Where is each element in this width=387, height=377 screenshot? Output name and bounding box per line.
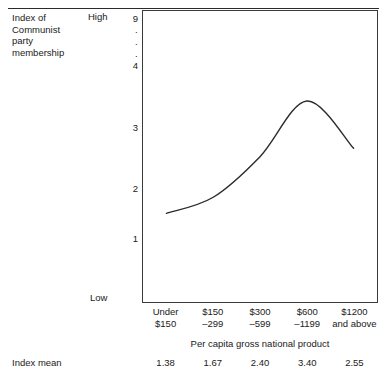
y-tick-label-2: 2: [122, 183, 138, 194]
x-category-3-line-1: $600: [284, 306, 331, 318]
x-category-1: $150 –299: [189, 306, 236, 329]
index-mean-values-row: 1.38 1.67 2.40 3.40 2.55: [142, 357, 378, 368]
index-mean-value-2: 2.40: [236, 357, 283, 368]
x-axis-title: Per capita gross national product: [142, 338, 378, 349]
x-category-1-line-2: –299: [189, 318, 236, 330]
y-axis-high-label: High: [88, 11, 108, 22]
x-category-3-line-2: –1199: [284, 318, 331, 330]
y-tick-label-9: 9: [122, 13, 138, 24]
x-category-1-line-1: $150: [189, 306, 236, 318]
x-category-2: $300 –599: [236, 306, 283, 329]
x-category-0-line-2: $150: [142, 318, 189, 330]
x-category-2-line-1: $300: [236, 306, 283, 318]
index-mean-row-label: Index mean: [12, 357, 62, 368]
x-category-4-line-1: $1200: [331, 306, 378, 318]
y-tick-label-1: 1: [122, 233, 138, 244]
index-mean-value-3: 3.40: [284, 357, 331, 368]
x-category-3: $600 –1199: [284, 306, 331, 329]
index-mean-value-0: 1.38: [142, 357, 189, 368]
y-axis-break-dot-3: ·: [122, 52, 138, 60]
y-axis-caption: Index of Communist party membership: [12, 12, 86, 58]
plot-area: [142, 10, 378, 303]
top-divider-rule: [8, 8, 379, 9]
figure-root: Index of Communist party membership High…: [0, 0, 387, 377]
y-axis-break-dot-2: ·: [122, 40, 138, 48]
x-axis-category-labels: Under $150 $150 –299 $300 –599 $600 –119…: [142, 306, 378, 329]
y-axis-caption-line-1: Index of: [12, 12, 86, 24]
y-tick-label-4: 4: [122, 60, 138, 71]
y-axis-low-label: Low: [90, 292, 107, 303]
x-category-0: Under $150: [142, 306, 189, 329]
x-category-0-line-1: Under: [142, 306, 189, 318]
y-axis-caption-line-4: membership: [12, 47, 86, 59]
x-category-2-line-2: –599: [236, 318, 283, 330]
curve-path: [166, 101, 353, 213]
y-tick-label-3: 3: [122, 122, 138, 133]
x-category-4: $1200 and above: [331, 306, 378, 329]
y-axis-break-dot-1: ·: [122, 28, 138, 36]
index-mean-value-4: 2.55: [331, 357, 378, 368]
y-axis-caption-line-2: Communist: [12, 24, 86, 36]
index-mean-value-1: 1.67: [189, 357, 236, 368]
series-line-communist-party-index: [143, 11, 377, 302]
y-axis-caption-line-3: party: [12, 35, 86, 47]
x-category-4-line-2: and above: [331, 318, 378, 330]
